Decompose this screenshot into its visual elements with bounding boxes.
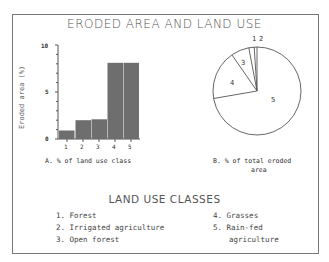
pie-label-3: 3 — [241, 59, 245, 67]
pie-label-4: 4 — [230, 79, 234, 87]
x-tick-5: 5 — [128, 143, 132, 150]
caption-b-line1: B. % of total eroded — [213, 157, 291, 165]
bar-3 — [92, 119, 108, 139]
caption-a: A. % of land use class — [45, 157, 131, 165]
pie-chart — [213, 47, 301, 135]
bar-1 — [59, 131, 75, 140]
pie-label-1: 1 — [252, 35, 256, 43]
legend-item-5-cont: agriculture — [229, 235, 279, 244]
bar-2 — [76, 120, 92, 139]
legend-item-2: 2. Irrigated agriculture — [56, 223, 164, 232]
x-tick-3: 3 — [96, 143, 100, 150]
pie-label-2: 2 — [259, 35, 263, 43]
legend-item-3: 3. Open forest — [56, 235, 119, 244]
chart-graphics — [0, 0, 329, 262]
x-tick-4: 4 — [112, 143, 116, 150]
pie-label-5: 5 — [271, 96, 275, 104]
legend-item-1: 1. Forest — [56, 211, 97, 220]
legend-title: LAND USE CLASSES — [0, 193, 329, 205]
bar-4 — [108, 63, 124, 139]
legend-item-5: 5. Rain-fed — [213, 223, 263, 232]
x-tick-2: 2 — [80, 143, 84, 150]
caption-b-line2: area — [251, 166, 267, 174]
legend-item-4: 4. Grasses — [213, 211, 258, 220]
bars — [59, 63, 139, 139]
x-tick-1: 1 — [64, 143, 68, 150]
bar-5 — [124, 63, 140, 139]
